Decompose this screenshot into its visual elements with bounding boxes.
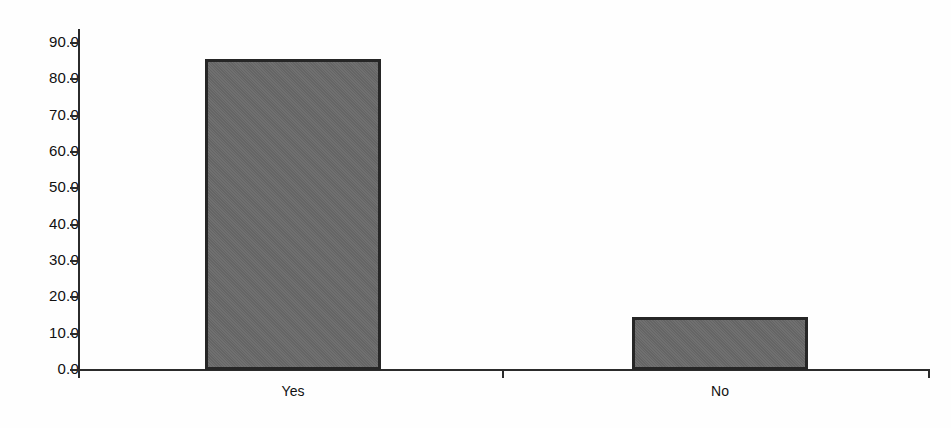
x-axis-tick-end [928, 369, 930, 378]
x-axis-category-label: Yes [205, 383, 381, 399]
y-axis-tick-mark [70, 333, 79, 335]
bar-yes [205, 59, 381, 370]
x-axis-tick-divider [502, 369, 504, 378]
y-axis-tick-mark [70, 42, 79, 44]
bar-no [632, 317, 808, 370]
y-axis-tick-mark [70, 151, 79, 153]
y-axis-tick-mark [70, 187, 79, 189]
y-axis-tick-mark [70, 296, 79, 298]
y-axis-tick-mark [70, 115, 79, 117]
y-axis-tick-mark [70, 78, 79, 80]
y-axis-tick-mark [70, 224, 79, 226]
bar-chart: 0.010.020.030.040.050.060.070.080.090.0 … [0, 0, 951, 428]
y-axis-tick-mark [70, 260, 79, 262]
x-axis-tick-start [78, 369, 80, 378]
x-axis-category-label: No [632, 383, 808, 399]
